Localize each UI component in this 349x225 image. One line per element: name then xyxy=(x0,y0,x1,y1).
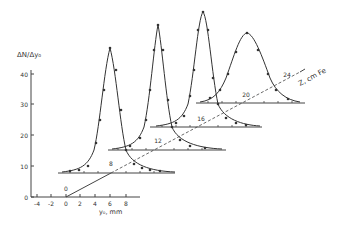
baseline-ticks xyxy=(70,101,292,173)
curve-z8 xyxy=(62,48,175,172)
svg-text:40: 40 xyxy=(20,71,28,78)
svg-text:8: 8 xyxy=(124,200,128,207)
depth-tick-labels: 0 8 12 16 20 24 xyxy=(64,71,291,192)
depth-axis-dashed xyxy=(111,72,300,173)
svg-text:10: 10 xyxy=(20,163,28,170)
curve-z20 xyxy=(200,33,300,102)
svg-text:-2: -2 xyxy=(48,200,54,207)
depth-axis-arrow-end xyxy=(300,69,305,72)
markers xyxy=(69,11,290,173)
x-axis-label: y₀, mm xyxy=(99,208,122,216)
depth-axis-solid xyxy=(66,173,111,197)
baselines xyxy=(58,103,305,173)
svg-text:30: 30 xyxy=(20,101,28,108)
svg-text:0: 0 xyxy=(64,185,68,192)
chart: 0 10 20 30 40 ΔN/Δy₀ -4 -2 0 2 4 6 8 y₀,… xyxy=(0,0,349,225)
svg-text:20: 20 xyxy=(242,91,250,98)
svg-text:0: 0 xyxy=(64,200,68,207)
y-tick-labels: 0 10 20 30 40 xyxy=(20,71,28,201)
svg-text:16: 16 xyxy=(197,115,205,122)
curves xyxy=(62,12,300,172)
svg-text:4: 4 xyxy=(93,200,97,207)
svg-text:12: 12 xyxy=(154,137,162,144)
svg-text:0: 0 xyxy=(24,194,28,201)
x-tick-labels: -4 -2 0 2 4 6 8 xyxy=(34,200,128,207)
y-axis-label: ΔN/Δy₀ xyxy=(17,51,41,59)
svg-text:24: 24 xyxy=(283,71,291,78)
svg-text:-4: -4 xyxy=(34,200,40,207)
curve-z12 xyxy=(112,25,222,149)
svg-text:20: 20 xyxy=(20,132,28,139)
svg-text:2: 2 xyxy=(78,200,82,207)
svg-text:8: 8 xyxy=(109,160,113,167)
depth-axis-label: Z, cm Fe xyxy=(297,67,327,88)
svg-text:6: 6 xyxy=(108,200,112,207)
